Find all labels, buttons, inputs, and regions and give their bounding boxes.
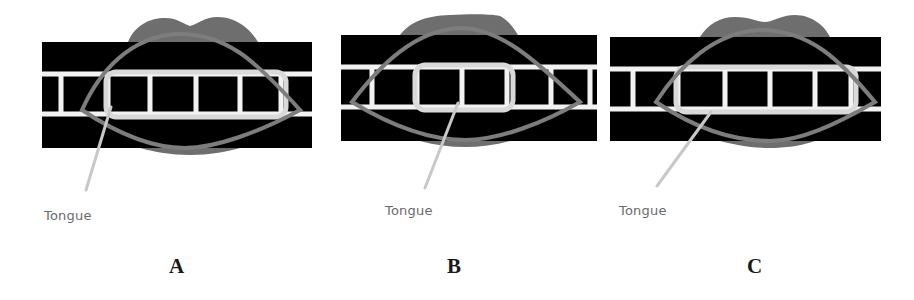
- panel-a-upper-lip: [128, 17, 258, 42]
- panel-a-tooth-divider: [194, 74, 199, 114]
- panel-a-tooth-divider: [59, 74, 64, 114]
- panel-b-tooth-divider: [460, 67, 465, 107]
- panel-c-tooth-divider: [768, 69, 773, 109]
- panel-c-label: C: [747, 254, 762, 279]
- panel-a-tooth-divider: [148, 74, 153, 114]
- panel-b-upper-lip: [400, 14, 518, 35]
- panel-c: [610, 15, 881, 186]
- panel-a-tooth-divider: [238, 74, 243, 114]
- panel-b-label: B: [447, 254, 461, 279]
- panel-c-upper-lip: [700, 15, 830, 37]
- panel-c-mouth-band: [610, 37, 881, 141]
- panel-b-tongue-callout: Tongue: [385, 203, 433, 218]
- panel-a: [42, 17, 312, 190]
- panel-a-label: A: [169, 254, 184, 279]
- panel-c-tooth-divider: [631, 69, 636, 109]
- panel-c-tooth-divider: [813, 69, 818, 109]
- panel-a-mouth-band: [42, 42, 312, 148]
- panel-c-tooth-divider: [723, 69, 728, 109]
- panel-b-mouth-band: [341, 35, 597, 141]
- panel-b: [341, 14, 597, 188]
- figure-stage: Tongue A Tongue B Tongue C: [0, 0, 914, 300]
- panel-b-tooth-divider: [505, 67, 510, 107]
- panel-c-tongue-callout: Tongue: [619, 203, 667, 218]
- panel-a-tongue-callout: Tongue: [44, 208, 92, 223]
- panel-b-tooth-divider: [588, 67, 593, 107]
